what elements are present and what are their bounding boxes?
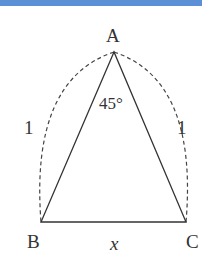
triangle-figure: A 45° 1 1 B x C: [0, 0, 216, 272]
angle-label: 45°: [99, 95, 123, 112]
side-ab-label: 1: [24, 118, 34, 137]
base-label: x: [110, 234, 118, 253]
side-ac-label: 1: [177, 118, 187, 137]
triangle-abc: [41, 52, 186, 222]
vertex-a-label: A: [106, 26, 120, 45]
vertex-c-label: C: [186, 232, 199, 251]
vertex-b-label: B: [27, 232, 40, 251]
